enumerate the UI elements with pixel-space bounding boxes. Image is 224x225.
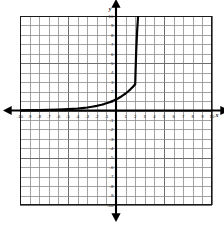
x-tick-label: -10	[17, 114, 24, 119]
y-tick-label: -7	[110, 174, 114, 179]
axis-arrow-left	[3, 106, 12, 115]
x-tick-label: -1	[104, 114, 108, 119]
annotation-x-axis-name: x	[215, 112, 219, 118]
y-tick-label: -8	[110, 184, 114, 189]
x-tick-label: -7	[47, 114, 51, 119]
coordinate-plane-svg: -10-9-8-7-6-5-4-3-2-11234567891010987654…	[0, 0, 224, 225]
x-tick-label: -2	[95, 114, 99, 119]
y-tick-label: -2	[110, 127, 114, 132]
y-tick-label: -9	[110, 193, 114, 198]
annotation-y-axis-name: y	[108, 6, 112, 12]
x-tick-label: 10	[210, 114, 215, 119]
y-tick-label: -1	[110, 118, 114, 123]
x-tick-label: -6	[56, 114, 60, 119]
x-tick-label: -5	[66, 114, 70, 119]
x-tick-label: -9	[28, 114, 32, 119]
x-tick-label: -4	[76, 114, 80, 119]
y-tick-label: -10	[107, 203, 114, 208]
y-tick-label: -5	[110, 155, 114, 160]
y-tick-label: 10	[109, 14, 114, 19]
y-tick-label: -3	[110, 137, 114, 142]
axis-arrow-right	[220, 106, 224, 115]
y-tick-label: -6	[110, 165, 114, 170]
y-tick-label: -4	[110, 146, 114, 151]
graph-figure: -10-9-8-7-6-5-4-3-2-11234567891010987654…	[0, 0, 224, 225]
x-tick-label: -3	[85, 114, 89, 119]
axis-arrow-up	[111, 0, 120, 8]
axis-arrow-down	[111, 213, 120, 222]
x-tick-label: -8	[37, 114, 41, 119]
